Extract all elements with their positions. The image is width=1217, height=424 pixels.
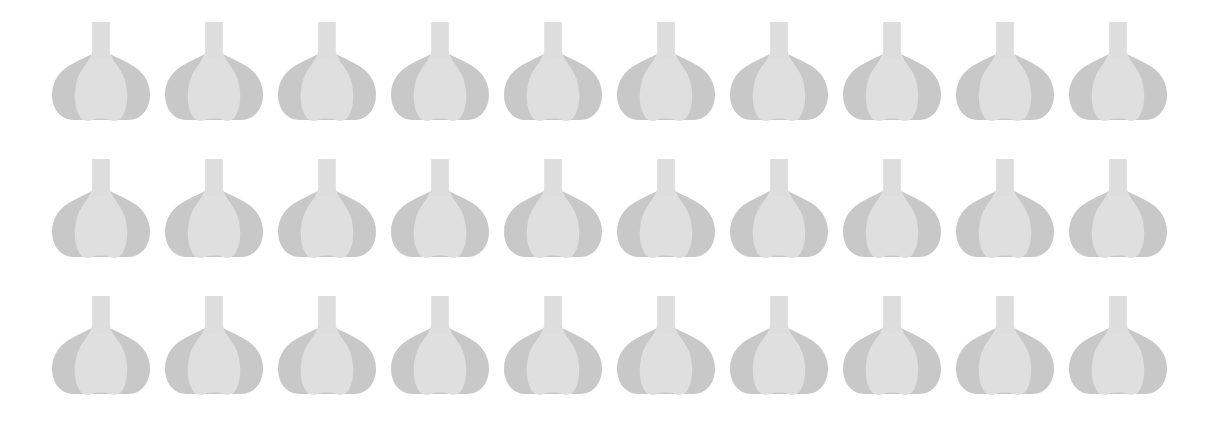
garlic-icon [504, 159, 602, 261]
garlic-icon [730, 22, 828, 124]
garlic-bulb [52, 159, 150, 261]
garlic-bulb [278, 296, 376, 398]
garlic-stem [205, 22, 223, 59]
garlic-stem [318, 159, 336, 196]
garlic-stem [1109, 22, 1127, 59]
garlic-stem [92, 22, 110, 59]
garlic-bulb [843, 296, 941, 398]
garlic-icon [165, 296, 263, 398]
garlic-stem [431, 296, 449, 333]
garlic-icon [730, 159, 828, 261]
garlic-bulb [504, 296, 602, 398]
garlic-stem [92, 296, 110, 333]
garlic-icon [52, 159, 150, 261]
garlic-stem [318, 296, 336, 333]
garlic-bulb [52, 22, 150, 124]
garlic-stem [205, 159, 223, 196]
garlic-icon [617, 22, 715, 124]
garlic-bulb [1069, 159, 1167, 261]
garlic-stem [770, 296, 788, 333]
garlic-bulb [165, 296, 263, 398]
garlic-icon [278, 159, 376, 261]
garlic-icon [956, 296, 1054, 398]
garlic-bulb [278, 159, 376, 261]
garlic-icon [956, 159, 1054, 261]
garlic-stem [431, 22, 449, 59]
garlic-stem [544, 159, 562, 196]
garlic-stem [657, 296, 675, 333]
garlic-icon [278, 296, 376, 398]
garlic-icon [843, 22, 941, 124]
garlic-bulb [730, 159, 828, 261]
garlic-bulb [165, 159, 263, 261]
garlic-bulb [730, 296, 828, 398]
garlic-icon [1069, 159, 1167, 261]
garlic-icon [165, 159, 263, 261]
garlic-icon [1069, 296, 1167, 398]
garlic-stem [544, 22, 562, 59]
garlic-icon [504, 296, 602, 398]
garlic-bulb [617, 159, 715, 261]
garlic-bulb [1069, 22, 1167, 124]
garlic-bulb [504, 22, 602, 124]
garlic-icon [278, 22, 376, 124]
garlic-stem [318, 22, 336, 59]
garlic-stem [770, 159, 788, 196]
garlic-icon [617, 159, 715, 261]
garlic-icon [504, 22, 602, 124]
garlic-bulb [391, 22, 489, 124]
garlic-bulb [956, 159, 1054, 261]
garlic-stem [92, 159, 110, 196]
garlic-bulb [391, 296, 489, 398]
garlic-stem [770, 22, 788, 59]
garlic-bulb [617, 296, 715, 398]
garlic-bulb [956, 22, 1054, 124]
garlic-stem [996, 296, 1014, 333]
garlic-bulb [730, 22, 828, 124]
garlic-bulb [391, 159, 489, 261]
garlic-icon [391, 22, 489, 124]
garlic-stem [883, 296, 901, 333]
garlic-stem [883, 22, 901, 59]
garlic-stem [544, 296, 562, 333]
garlic-stem [205, 296, 223, 333]
garlic-bulb [956, 296, 1054, 398]
garlic-icon [391, 296, 489, 398]
garlic-icon [843, 296, 941, 398]
garlic-icon [52, 22, 150, 124]
garlic-icon [730, 296, 828, 398]
garlic-stem [1109, 159, 1127, 196]
garlic-stem [996, 22, 1014, 59]
garlic-icon [391, 159, 489, 261]
garlic-stem [1109, 296, 1127, 333]
garlic-bulb [504, 159, 602, 261]
garlic-icon [843, 159, 941, 261]
garlic-icon [617, 296, 715, 398]
garlic-icon [956, 22, 1054, 124]
garlic-bulb [278, 22, 376, 124]
garlic-icon [52, 296, 150, 398]
garlic-bulb [52, 296, 150, 398]
garlic-bulb [843, 159, 941, 261]
garlic-stem [996, 159, 1014, 196]
garlic-bulb [843, 22, 941, 124]
garlic-bulb [1069, 296, 1167, 398]
garlic-stem [431, 159, 449, 196]
garlic-icon [1069, 22, 1167, 124]
garlic-stem [883, 159, 901, 196]
garlic-bulb [617, 22, 715, 124]
garlic-icon [165, 22, 263, 124]
garlic-bulb [165, 22, 263, 124]
garlic-stem [657, 159, 675, 196]
garlic-grid [0, 0, 1217, 424]
garlic-stem [657, 22, 675, 59]
